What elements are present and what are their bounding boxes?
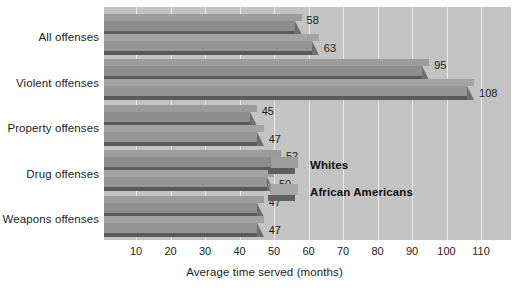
legend-swatch-african-americans xyxy=(268,184,298,202)
category-label-weapons-offenses: Weapons offenses xyxy=(0,213,99,225)
gridline-90 xyxy=(412,7,413,240)
value-label-property-offenses-african-americans: 47 xyxy=(269,134,281,145)
legend-label-whites: Whites xyxy=(310,159,348,171)
x-tick-10: 10 xyxy=(121,245,151,257)
value-label-all-offenses-whites: 58 xyxy=(307,15,319,26)
x-tick-40: 40 xyxy=(225,245,255,257)
value-label-violent-offenses-whites: 95 xyxy=(434,60,446,71)
category-label-drug-offenses: Drug offenses xyxy=(0,168,99,180)
x-tick-90: 90 xyxy=(397,245,427,257)
legend: Whites African Americans xyxy=(268,155,404,209)
x-tick-70: 70 xyxy=(328,245,358,257)
x-tick-80: 80 xyxy=(363,245,393,257)
x-tick-50: 50 xyxy=(259,245,289,257)
value-label-all-offenses-african-americans: 63 xyxy=(324,43,336,54)
legend-label-african-americans: African Americans xyxy=(310,186,413,198)
x-tick-60: 60 xyxy=(294,245,324,257)
bar-chart: All offenses Violent offenses Property o… xyxy=(0,0,529,291)
value-label-property-offenses-whites: 45 xyxy=(262,106,274,117)
category-label-violent-offenses: Violent offenses xyxy=(0,77,99,89)
x-tick-100: 100 xyxy=(432,245,462,257)
x-tick-30: 30 xyxy=(190,245,220,257)
legend-item-whites: Whites xyxy=(268,155,404,182)
value-label-weapons-offenses-african-americans: 47 xyxy=(269,225,281,236)
x-tick-20: 20 xyxy=(156,245,186,257)
x-axis-title: Average time served (months) xyxy=(0,266,529,278)
value-label-violent-offenses-african-americans: 108 xyxy=(479,88,497,99)
gridline-100 xyxy=(447,7,448,240)
x-tick-110: 110 xyxy=(466,245,496,257)
category-label-all-offenses: All offenses xyxy=(0,31,99,43)
category-label-property-offenses: Property offenses xyxy=(0,122,99,134)
gridline-110 xyxy=(481,7,482,240)
legend-swatch-whites xyxy=(268,157,298,175)
legend-item-african-americans: African Americans xyxy=(268,182,404,209)
